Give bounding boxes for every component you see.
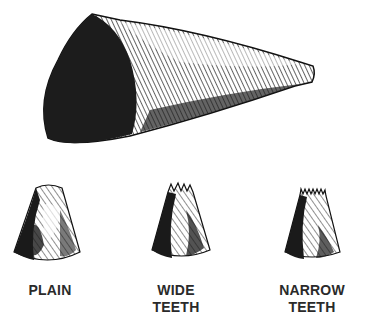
label-plain: PLAIN [20, 282, 80, 299]
pastry-bag-cone [44, 14, 315, 143]
wide-teeth-tip [152, 183, 210, 258]
label-line: WIDE [146, 282, 206, 299]
label-line: TEETH [146, 299, 206, 316]
narrow-teeth-tip [285, 189, 340, 259]
label-line: TEETH [272, 299, 352, 316]
label-line: PLAIN [20, 282, 80, 299]
label-line: NARROW [272, 282, 352, 299]
label-narrow-teeth: NARROW TEETH [272, 282, 352, 316]
plain-tip [14, 185, 80, 260]
label-wide-teeth: WIDE TEETH [146, 282, 206, 316]
